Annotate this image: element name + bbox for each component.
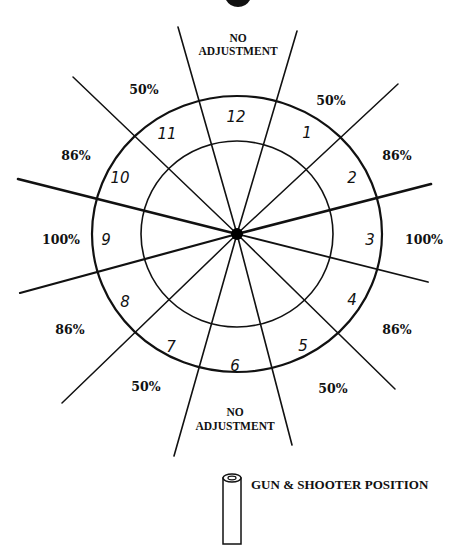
legend-label: GUN & SHOOTER POSITION — [251, 477, 429, 492]
spoke-top-right — [237, 31, 297, 234]
percent-label: 50% — [318, 381, 347, 396]
spoke-right-upper — [237, 184, 431, 234]
gun-barrel-icon — [223, 474, 241, 544]
percent-label: 50% — [316, 93, 345, 108]
hour-label-6: 6 — [230, 357, 240, 375]
percent-label: 100% — [405, 232, 443, 247]
hour-label-2: 2 — [347, 169, 357, 187]
percent-label: 50% — [131, 379, 160, 394]
hour-label-4: 4 — [347, 291, 357, 309]
hour-label-1: 1 — [302, 124, 312, 142]
spoke-upper-left — [73, 77, 237, 234]
spoke-lower-right — [237, 234, 395, 389]
hour-label-3: 3 — [365, 231, 375, 249]
no-adjustment-top-line1: NO — [229, 32, 246, 44]
percent-label: 100% — [42, 232, 80, 247]
percent-label: 86% — [382, 148, 411, 163]
center-dot — [231, 228, 243, 240]
percent-label: 86% — [61, 148, 90, 163]
hour-label-8: 8 — [120, 293, 130, 311]
hour-label-11: 11 — [157, 125, 176, 143]
percent-label: 50% — [129, 82, 158, 97]
legend: GUN & SHOOTER POSITION — [223, 474, 429, 544]
percent-label: 86% — [55, 322, 84, 337]
spoke-top-left — [178, 27, 237, 234]
spoke-bottom-right — [237, 234, 292, 445]
no-adjustment-bottom-line1: NO — [226, 406, 243, 418]
hour-label-5: 5 — [298, 337, 308, 355]
top-marker-shape — [226, 0, 250, 7]
hour-label-9: 9 — [101, 231, 111, 249]
wind-clock-diagram: 121234567891011 50%86%100%86%50%50%86%10… — [0, 0, 455, 552]
percent-label: 86% — [382, 322, 411, 337]
no-adjustment-top-label: NO ADJUSTMENT — [198, 32, 278, 57]
hour-label-10: 10 — [110, 169, 129, 187]
no-adjustment-bottom-label: NO ADJUSTMENT — [195, 406, 275, 432]
spoke-left-upper — [18, 179, 237, 234]
hour-label-12: 12 — [226, 108, 245, 126]
no-adjustment-bottom-line2: ADJUSTMENT — [195, 420, 275, 432]
no-adjustment-top-line2: ADJUSTMENT — [198, 45, 278, 57]
hour-label-7: 7 — [166, 338, 176, 356]
